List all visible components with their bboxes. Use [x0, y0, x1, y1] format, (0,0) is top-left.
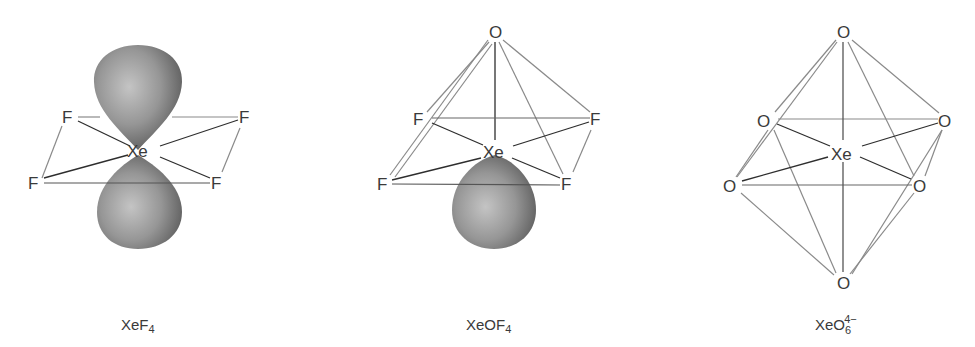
atom-o: O: [757, 112, 770, 131]
edge-o-o: [737, 42, 837, 177]
bond-xe-f: [513, 122, 589, 146]
atom-xe: Xe: [127, 142, 148, 161]
atom-o: O: [837, 274, 850, 293]
bond-xe-o: [777, 124, 830, 146]
panel-xeo6: O O O O O O Xe XeO64−: [723, 23, 951, 336]
atom-f: F: [561, 175, 571, 194]
bond-xe-f: [432, 123, 483, 145]
edge-o-o: [774, 130, 836, 273]
plane-edge: [42, 126, 62, 178]
edge-o-o: [852, 130, 942, 274]
panel-xeof4: O F F F F Xe XeOF4: [377, 23, 600, 335]
atom-xe: Xe: [483, 143, 504, 162]
edge-o-f: [390, 40, 488, 175]
bond-xe-o: [860, 157, 911, 179]
caption-xeo6: XeO64−: [815, 313, 857, 336]
lone-pair-lobe: [452, 155, 536, 249]
atom-o: O: [938, 112, 951, 131]
atom-o: O: [913, 177, 926, 196]
lone-pair-lobe-bottom: [97, 155, 182, 249]
bond-xe-f: [160, 157, 210, 178]
caption-xeof4: XeOF4: [466, 316, 511, 335]
atom-f: F: [28, 174, 38, 193]
molecular-geometry-figure: F F F F Xe XeF4 O F F F F Xe XeOF4: [0, 0, 975, 347]
edge-o-o: [775, 40, 836, 112]
bond-xe-f: [160, 120, 238, 146]
caption-xef4: XeF4: [121, 316, 155, 335]
edge-o-o: [741, 193, 834, 275]
atom-o: O: [723, 177, 736, 196]
panel-xef4: F F F F Xe XeF4: [28, 45, 249, 335]
edge-o-o: [848, 42, 914, 176]
atom-xe: Xe: [831, 145, 852, 164]
atom-f: F: [239, 108, 249, 127]
atom-f: F: [211, 174, 221, 193]
lone-pair-lobe-top: [94, 45, 182, 150]
bond-xe-o: [862, 123, 938, 146]
atom-o: O: [489, 23, 502, 42]
edge-o-f: [499, 42, 563, 174]
atom-f: F: [413, 110, 423, 129]
plane-edge: [392, 184, 560, 185]
edge-o-f: [427, 42, 489, 112]
edge-o-f: [395, 44, 492, 177]
bond-xe-o: [742, 157, 828, 181]
edge-o-o: [850, 193, 914, 274]
plane-edge: [222, 128, 240, 172]
plane-edge: [573, 130, 591, 172]
atom-o: O: [837, 23, 850, 42]
plane-edge: [736, 130, 768, 177]
atom-f: F: [377, 175, 387, 194]
atom-f: F: [62, 108, 72, 127]
atom-f: F: [590, 110, 600, 129]
